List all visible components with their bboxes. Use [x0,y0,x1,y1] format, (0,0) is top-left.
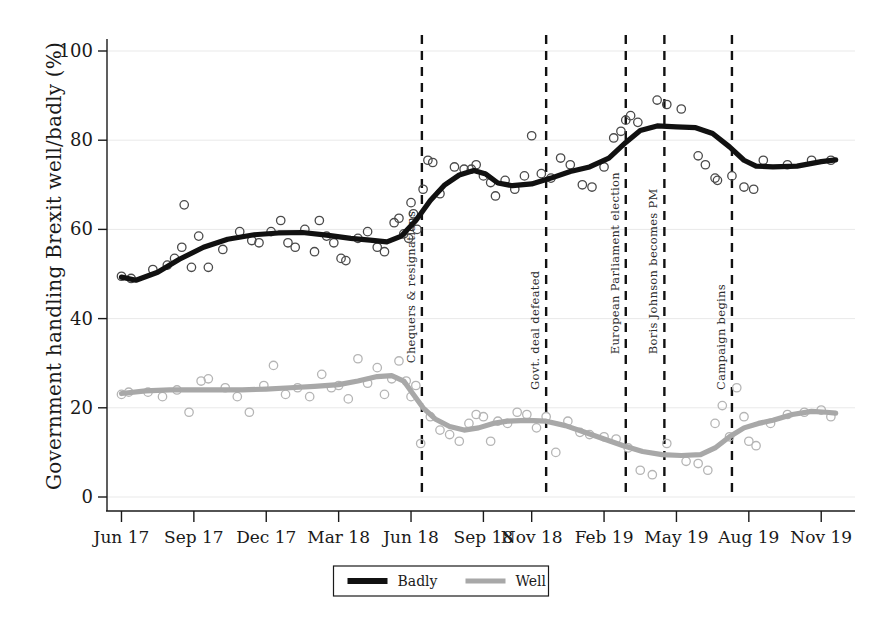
data-point-well [305,392,313,400]
x-axis-tick-label: Nov 18 [501,527,563,547]
data-point-well [648,471,656,479]
data-point-well [445,430,453,438]
data-point-badly [429,158,437,166]
x-axis-tick-label: Mar 18 [307,527,370,547]
data-point-badly [759,156,767,164]
data-point-badly [342,256,350,264]
legend-label-badly: Badly [398,573,438,589]
data-point-badly [491,192,499,200]
data-point-well [740,413,748,421]
data-point-well [486,437,494,445]
data-point-well [395,357,403,365]
data-point-badly [194,232,202,240]
data-point-badly [578,181,586,189]
y-axis-tick-label: 0 [82,486,93,507]
data-point-badly [419,185,427,193]
data-point-badly [180,201,188,209]
y-axis-tick-label: 60 [70,218,93,239]
event-annotation-label: Govt. deal defeated [528,270,542,390]
data-point-badly [711,174,719,182]
data-point-well [711,419,719,427]
data-point-badly [178,243,186,251]
data-point-badly [277,216,285,224]
data-point-badly [617,127,625,135]
data-point-badly [219,245,227,253]
data-point-badly [701,161,709,169]
data-point-badly [588,183,596,191]
data-point-badly [520,172,528,180]
data-point-well [354,355,362,363]
data-point-well [552,448,560,456]
data-point-badly [634,118,642,126]
data-point-well [455,437,463,445]
data-point-badly [291,243,299,251]
trend-line-well [121,376,835,456]
data-point-well [532,424,540,432]
y-axis-tick-label: 80 [70,129,93,150]
data-point-badly [315,216,323,224]
data-point-badly [187,263,195,271]
x-axis-tick-label: Aug 19 [717,527,779,547]
data-point-well [694,459,702,467]
data-point-well [416,439,424,447]
x-axis-tick-label: May 19 [644,527,708,547]
legend-label-well: Well [516,573,547,589]
data-point-well [245,408,253,416]
x-axis-tick-label: Nov 19 [790,527,852,547]
data-point-badly [728,172,736,180]
data-point-badly [527,132,535,140]
data-point-badly [337,254,345,262]
data-point-badly [380,248,388,256]
y-axis-tick-label: 40 [70,308,93,329]
data-point-badly [713,176,721,184]
data-point-well [158,392,166,400]
event-annotation-label: Boris Johnson becomes PM [646,188,660,354]
data-point-well [281,390,289,398]
data-point-badly [653,96,661,104]
data-point-well [344,395,352,403]
brexit-handling-chart: 020406080100Jun 17Sep 17Dec 17Mar 18Jun … [0,0,870,621]
data-point-well [373,363,381,371]
trend-line-badly [121,126,835,280]
data-point-badly [749,185,757,193]
data-point-badly [566,161,574,169]
data-point-badly [204,263,212,271]
data-point-badly [424,156,432,164]
event-annotation-label: Campaign begins [714,284,728,390]
data-point-badly [556,154,564,162]
y-axis-tick-label: 100 [59,40,93,61]
data-point-badly [677,105,685,113]
data-point-badly [740,183,748,191]
x-axis-tick-label: Dec 17 [236,527,296,547]
data-point-well [704,466,712,474]
data-point-badly [450,163,458,171]
data-point-well [513,408,521,416]
x-axis-tick-label: Sep 17 [164,527,224,547]
x-axis-tick-label: Jun 18 [381,527,439,547]
data-point-well [636,466,644,474]
data-point-well [185,408,193,416]
data-point-well [682,457,690,465]
data-point-well [733,384,741,392]
data-point-badly [363,227,371,235]
data-point-well [523,410,531,418]
data-point-badly [310,248,318,256]
data-point-badly [407,198,415,206]
event-annotation-label: European Parliament election [608,172,622,355]
chart-figure: Government handling Brexit well/badly (%… [0,0,870,621]
y-axis-tick-label: 20 [70,397,93,418]
data-point-well [436,426,444,434]
data-point-badly [694,152,702,160]
data-point-well [718,401,726,409]
x-axis-tick-label: Jun 17 [92,527,150,547]
data-point-well [752,442,760,450]
data-point-well [269,361,277,369]
x-axis-tick-label: Feb 19 [575,527,634,547]
data-point-well [318,370,326,378]
data-point-badly [330,239,338,247]
data-point-well [412,381,420,389]
data-point-badly [537,169,545,177]
data-point-well [233,392,241,400]
data-point-well [380,390,388,398]
data-point-badly [610,134,618,142]
